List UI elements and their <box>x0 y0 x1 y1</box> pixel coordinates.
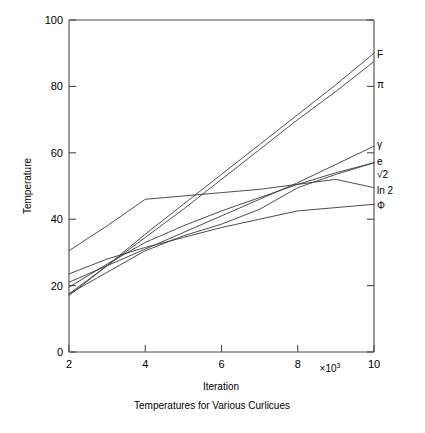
y-axis-title: Temperature <box>22 157 33 214</box>
x-tick-label: 4 <box>142 358 148 370</box>
x-tick-label: 10 <box>368 358 380 370</box>
series-paths-group <box>69 53 374 295</box>
x-tick-label: 6 <box>218 358 224 370</box>
series-label-ln2: ln 2 <box>377 185 394 196</box>
series-line-gamma <box>69 146 374 282</box>
x-axis-multiplier-exponent: 3 <box>337 362 341 369</box>
series-label-F: F <box>377 49 383 60</box>
y-tick-label: 0 <box>57 346 63 358</box>
series-label-phi: Φ <box>377 200 385 211</box>
line-chart: 020406080100 246810 Fπγe√2ln 2Φ Temperat… <box>0 0 425 433</box>
x-tick-label: 8 <box>295 358 301 370</box>
x-axis-multiplier-base: ×10 <box>320 363 337 374</box>
series-line-ln2 <box>69 179 374 250</box>
y-tick-label: 40 <box>51 213 63 225</box>
y-tick-label: 20 <box>51 280 63 292</box>
y-axis-ticks: 020406080100 <box>45 14 374 358</box>
series-label-gamma: γ <box>377 139 382 150</box>
series-line-e <box>69 163 374 288</box>
series-label-sqrt2: √2 <box>377 169 388 180</box>
x-tick-label: 2 <box>66 358 72 370</box>
series-line-sqrt2 <box>69 163 374 294</box>
x-axis-title: Iteration <box>203 381 239 392</box>
y-tick-label: 60 <box>51 147 63 159</box>
y-tick-label: 100 <box>45 14 63 26</box>
plot-axes <box>69 20 374 352</box>
y-tick-label: 80 <box>51 80 63 92</box>
series-labels-group: Fπγe√2ln 2Φ <box>377 49 394 211</box>
series-line-phi <box>69 204 374 274</box>
series-label-e: e <box>377 156 383 167</box>
series-label-pi: π <box>377 79 384 90</box>
chart-caption: Temperatures for Various Curlicues <box>134 400 290 411</box>
chart-figure: 020406080100 246810 Fπγe√2ln 2Φ Temperat… <box>0 0 425 433</box>
x-axis-multiplier: ×103 <box>320 362 341 374</box>
